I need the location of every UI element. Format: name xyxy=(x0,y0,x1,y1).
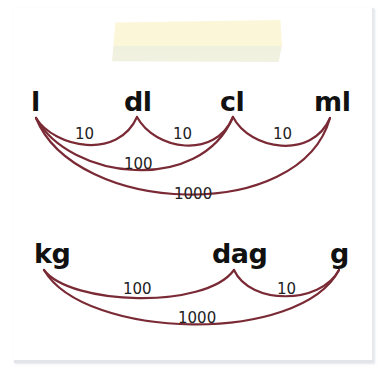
factor-kg-dag: 100 xyxy=(123,282,152,297)
factor-l-dl: 10 xyxy=(75,127,94,142)
factor-kg-g: 1000 xyxy=(178,311,216,326)
unit-label-g: g xyxy=(330,240,349,267)
unit-label-dag: dag xyxy=(212,240,267,267)
factor-l-cl: 100 xyxy=(124,157,153,172)
factor-cl-ml: 10 xyxy=(273,127,292,142)
factor-dag-g: 10 xyxy=(277,282,296,297)
unit-label-ml: ml xyxy=(314,88,350,115)
factor-l-ml: 1000 xyxy=(174,187,212,202)
factor-dl-cl: 10 xyxy=(173,127,192,142)
unit-label-l: l xyxy=(31,88,40,115)
unit-label-cl: cl xyxy=(220,88,244,115)
unit-label-kg: kg xyxy=(34,240,70,267)
unit-label-dl: dl xyxy=(124,88,152,115)
